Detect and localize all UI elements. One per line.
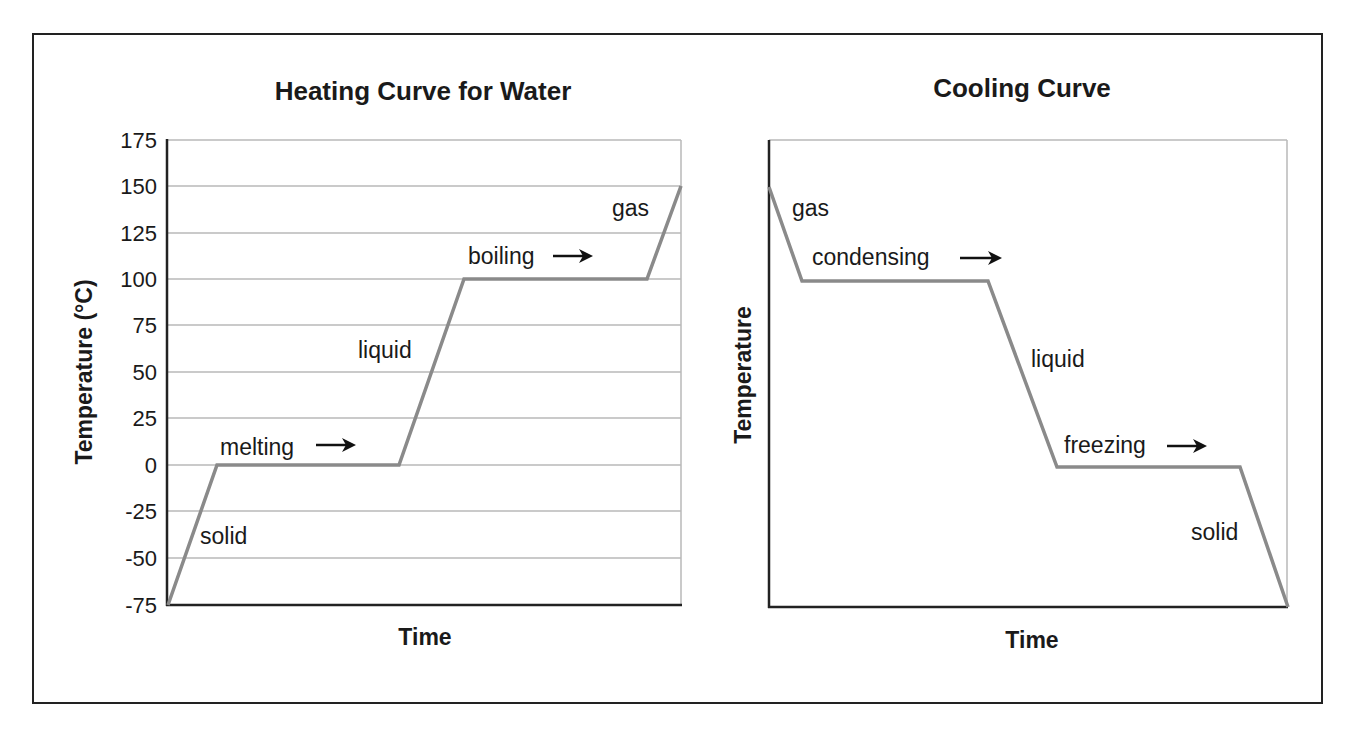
annotation-boiling: boiling <box>468 243 535 269</box>
heating-y-axis-label: Temperature (°C) <box>71 279 97 464</box>
y-tick-label: -25 <box>125 499 157 524</box>
heating-chart-title: Heating Curve for Water <box>275 76 572 106</box>
cooling-y-axis-label: Temperature <box>730 306 756 444</box>
annotation-freezing: freezing <box>1064 432 1146 458</box>
y-tick-label: -50 <box>125 546 157 571</box>
y-tick-label: 100 <box>120 267 157 292</box>
annotation-solid: solid <box>1191 519 1238 545</box>
charts-canvas: Heating Curve for Water 175 150 125 100 … <box>0 0 1349 731</box>
y-tick-label: 150 <box>120 174 157 199</box>
annotation-solid: solid <box>200 523 247 549</box>
heating-curve-chart: Heating Curve for Water 175 150 125 100 … <box>71 76 682 650</box>
annotation-liquid: liquid <box>1031 346 1085 372</box>
arrow-right-icon <box>316 438 356 452</box>
y-tick-label: 25 <box>133 406 157 431</box>
y-tick-label: -75 <box>125 593 157 618</box>
y-tick-label: 125 <box>120 221 157 246</box>
annotation-condensing: condensing <box>812 244 930 270</box>
heating-x-axis-label: Time <box>398 624 451 650</box>
annotation-gas: gas <box>612 195 649 221</box>
y-tick-label: 175 <box>120 128 157 153</box>
annotation-melting: melting <box>220 434 294 460</box>
cooling-x-axis-label: Time <box>1005 627 1058 653</box>
arrow-right-icon <box>1167 439 1207 453</box>
cooling-chart-title: Cooling Curve <box>933 73 1111 103</box>
annotation-liquid: liquid <box>358 337 412 363</box>
arrow-right-icon <box>553 249 593 263</box>
arrow-right-icon <box>960 251 1002 265</box>
y-tick-label: 0 <box>145 453 157 478</box>
y-tick-label: 75 <box>133 313 157 338</box>
cooling-curve-chart: Cooling Curve gas condensing liquid free… <box>730 73 1288 653</box>
annotation-gas: gas <box>792 195 829 221</box>
y-tick-label: 50 <box>133 360 157 385</box>
